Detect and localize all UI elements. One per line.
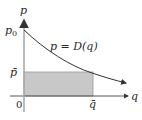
curve-label: p = D(q) — [50, 40, 98, 53]
revenue-region — [24, 72, 93, 96]
pbar-label: p̄ — [10, 66, 17, 79]
demand-curve-diagram: p p0 p = D(q) p̄ 0 q̄ q — [0, 0, 142, 120]
x-axis-label: q — [131, 90, 138, 103]
p0-label: p0 — [5, 24, 17, 38]
y-axis-label: p — [20, 4, 27, 17]
origin-label: 0 — [16, 99, 22, 110]
qbar-label: q̄ — [89, 98, 96, 111]
